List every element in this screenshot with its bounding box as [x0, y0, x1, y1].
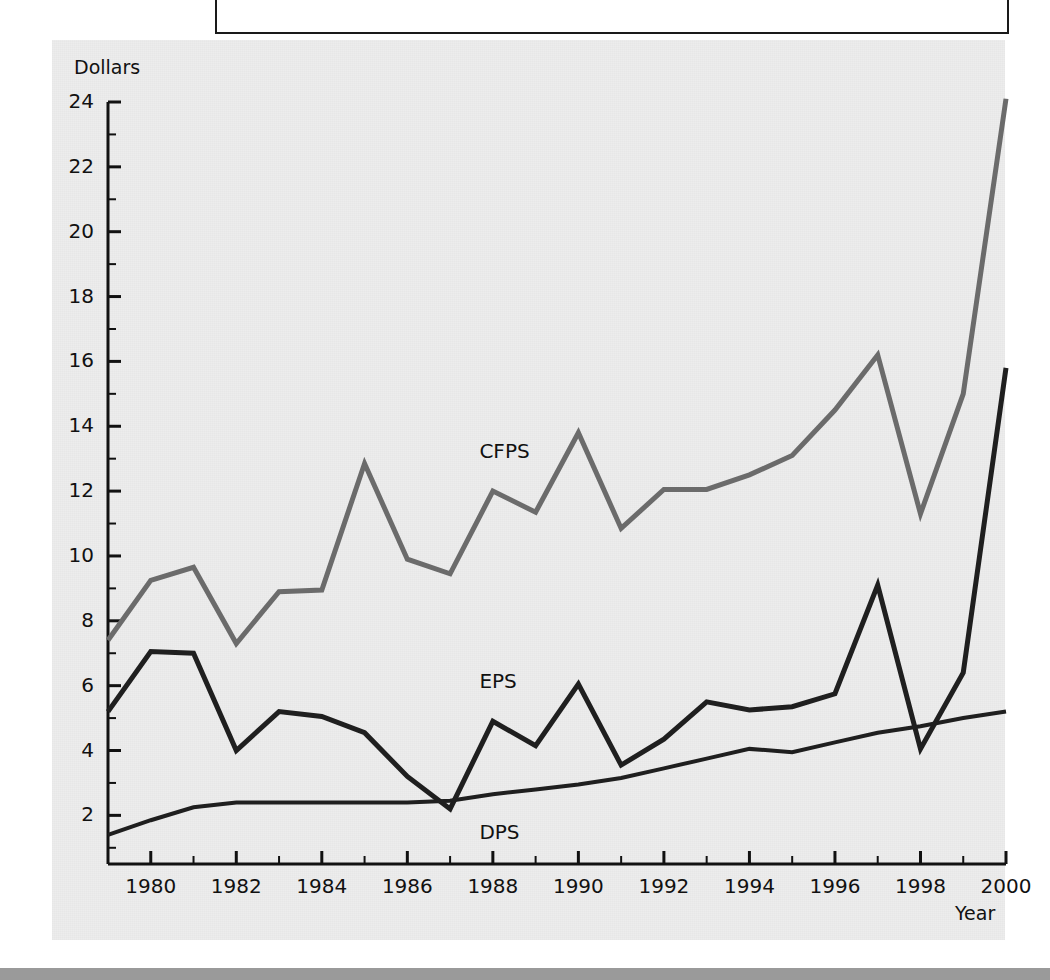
- series-line-cfps: [108, 99, 1006, 644]
- y-tick-label-18: 18: [48, 284, 94, 308]
- series-label-eps: EPS: [479, 669, 516, 693]
- y-tick-label-4: 4: [48, 738, 94, 762]
- y-tick-label-8: 8: [48, 608, 94, 632]
- x-tick-label-1994: 1994: [709, 874, 789, 898]
- x-tick-label-1988: 1988: [453, 874, 533, 898]
- y-tick-label-14: 14: [48, 413, 94, 437]
- bottom-gray-strip: [0, 968, 1050, 980]
- x-tick-label-2000: 2000: [966, 874, 1046, 898]
- x-tick-label-1984: 1984: [282, 874, 362, 898]
- y-tick-label-20: 20: [48, 219, 94, 243]
- series-label-cfps: CFPS: [479, 439, 529, 463]
- y-tick-label-6: 6: [48, 673, 94, 697]
- y-tick-label-24: 24: [48, 89, 94, 113]
- x-tick-label-1996: 1996: [795, 874, 875, 898]
- x-tick-label-1982: 1982: [196, 874, 276, 898]
- y-axis-title: Dollars: [74, 56, 140, 78]
- y-tick-label-2: 2: [48, 802, 94, 826]
- series-line-eps: [108, 368, 1006, 809]
- y-tick-label-16: 16: [48, 348, 94, 372]
- series-label-dps: DPS: [479, 820, 519, 844]
- x-tick-label-1998: 1998: [880, 874, 960, 898]
- y-tick-label-22: 22: [48, 154, 94, 178]
- x-tick-label-1992: 1992: [624, 874, 704, 898]
- y-tick-label-12: 12: [48, 478, 94, 502]
- x-tick-label-1986: 1986: [367, 874, 447, 898]
- series-line-dps: [108, 712, 1006, 835]
- x-tick-label-1990: 1990: [538, 874, 618, 898]
- y-tick-label-10: 10: [48, 543, 94, 567]
- x-tick-label-1980: 1980: [111, 874, 191, 898]
- chart-page: Dollars Year 24222018161412108642 198019…: [0, 0, 1050, 980]
- x-axis-title: Year: [955, 902, 995, 924]
- line-chart-plot: [0, 0, 1050, 980]
